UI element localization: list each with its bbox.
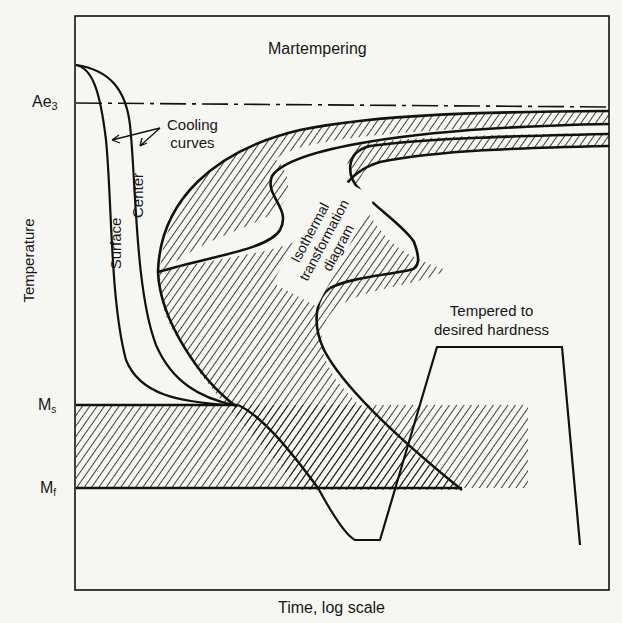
cooling-arrow-surface-icon xyxy=(112,128,160,143)
center-label: Center xyxy=(130,161,145,231)
diagram-title: Martempering xyxy=(268,41,367,57)
ae3-label: Ae3 xyxy=(32,94,58,112)
mf-sub: f xyxy=(53,487,56,498)
x-axis-title: Time, log scale xyxy=(278,600,385,616)
ms-base: M xyxy=(38,396,51,413)
ae3-sub: 3 xyxy=(52,100,58,112)
mf-label: Mf xyxy=(40,480,56,498)
surface-label: Surface xyxy=(108,204,123,284)
ae3-base: Ae xyxy=(32,93,52,110)
cooling-curves-line1: Cooling xyxy=(167,116,218,134)
tempered-label: Tempered to desired hardness xyxy=(434,302,549,340)
cooling-curves-line2: curves xyxy=(167,134,218,152)
ms-label: Ms xyxy=(38,397,56,415)
tempered-line1: Tempered to xyxy=(434,302,549,321)
y-axis-title: Temperature xyxy=(21,211,36,311)
tempered-line2: desired hardness xyxy=(434,321,549,340)
ms-sub: s xyxy=(51,404,56,415)
cooling-curves-label: Cooling curves xyxy=(167,116,218,152)
ae3-line xyxy=(76,103,609,107)
mf-base: M xyxy=(40,479,53,496)
